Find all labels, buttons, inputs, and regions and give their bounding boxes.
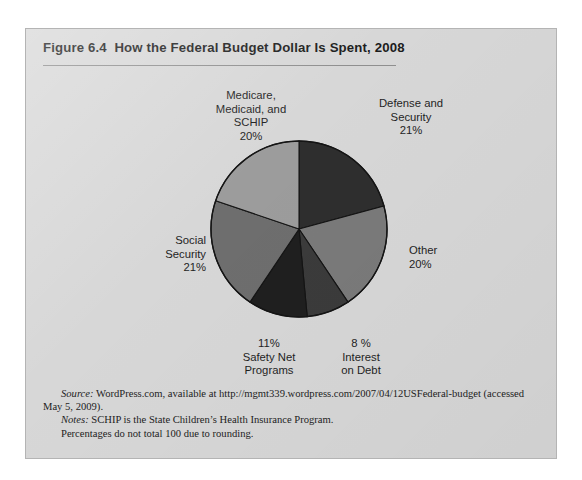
footnote-source-lead: Source:: [61, 388, 94, 399]
slice-label-social-security: Social Security 21%: [108, 234, 206, 275]
slice-label-interest-on-debt: 8 % Interest on Debt: [314, 337, 408, 378]
footnote-source-text: WordPress.com, available at http://mgmt3…: [43, 388, 524, 412]
pie-chart: [26, 29, 558, 389]
footnote-notes: Notes: SCHIP is the State Children’s Hea…: [43, 413, 543, 426]
pie-chart-area: Medicare, Medicaid, and SCHIP 20% Defens…: [26, 29, 558, 389]
footnote-notes-line2: Percentages do not total 100 due to roun…: [43, 427, 543, 440]
figure-panel: Figure 6.4 How the Federal Budget Dollar…: [25, 28, 557, 459]
figure-footnotes: Source: WordPress.com, available at http…: [43, 387, 543, 440]
slice-label-other: Other 20%: [409, 244, 499, 271]
slice-label-medicare: Medicare, Medicaid, and SCHIP 20%: [176, 89, 326, 143]
footnote-source: Source: WordPress.com, available at http…: [43, 387, 543, 413]
pie-slices: [211, 141, 387, 317]
footnote-notes-text: SCHIP is the State Children’s Health Ins…: [89, 414, 334, 425]
slice-label-safety-net: 11% Safety Net Programs: [218, 337, 320, 378]
footnote-notes-lead: Notes:: [61, 414, 89, 425]
slice-label-defense: Defense and Security 21%: [346, 97, 476, 138]
